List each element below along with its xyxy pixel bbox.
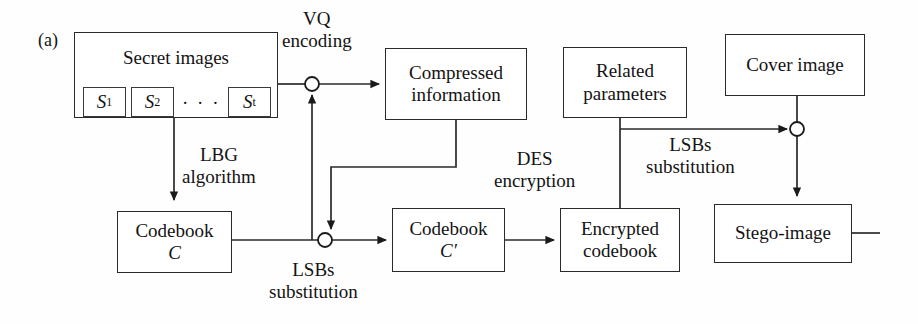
node-compressed-information[interactable]: Compressed information bbox=[385, 48, 527, 120]
node-encrypted-codebook-line2: codebook bbox=[581, 240, 659, 262]
node-stego-image[interactable]: Stego-image bbox=[714, 204, 852, 263]
edge-label-lsbs-substitution-left: LSBs substitution bbox=[269, 259, 358, 303]
secret-image-item-s2[interactable]: S2 bbox=[131, 87, 174, 117]
secret-image-item-s2-sub: 2 bbox=[154, 95, 160, 110]
secret-image-item-st-base: S bbox=[243, 91, 253, 113]
node-related-parameters-line2: parameters bbox=[583, 83, 666, 105]
node-encrypted-codebook[interactable]: Encrypted codebook bbox=[560, 208, 680, 272]
edge-label-vq-encoding-line1: VQ bbox=[282, 8, 352, 30]
edge-label-lsbs-substitution-left-line1: LSBs bbox=[269, 259, 358, 281]
secret-image-item-st-sub: t bbox=[253, 95, 256, 110]
lsb-right-junction-node bbox=[790, 122, 804, 136]
edge-label-lsbs-substitution-left-line2: substitution bbox=[269, 281, 358, 303]
node-codebook-c-line2: C bbox=[135, 242, 213, 264]
node-cover-image[interactable]: Cover image bbox=[725, 34, 865, 96]
edge-label-vq-encoding: VQ encoding bbox=[282, 8, 352, 52]
edge-label-lsbs-substitution-right-line1: LSBs bbox=[646, 134, 735, 156]
diagram-canvas: (a) Secret images S1 S2 · · · St Compres… bbox=[0, 0, 918, 324]
vq-junction-node bbox=[305, 77, 319, 91]
panel-label: (a) bbox=[38, 30, 58, 51]
edge-label-lbg-algorithm: LBG algorithm bbox=[182, 144, 256, 188]
edge-label-lbg-algorithm-line1: LBG bbox=[182, 144, 256, 166]
edge-label-lbg-algorithm-line2: algorithm bbox=[182, 166, 256, 188]
secret-image-item-s2-base: S bbox=[145, 91, 155, 113]
node-codebook-c[interactable]: Codebook C bbox=[117, 211, 232, 273]
secret-image-item-st[interactable]: St bbox=[228, 87, 271, 117]
node-codebook-c-prime-line1: Codebook bbox=[409, 218, 487, 240]
node-cover-image-label: Cover image bbox=[746, 54, 844, 76]
edge-label-vq-encoding-line2: encoding bbox=[282, 30, 352, 52]
edge-label-des-encryption-line1: DES bbox=[494, 148, 575, 170]
edge-label-des-encryption: DES encryption bbox=[494, 148, 575, 192]
node-encrypted-codebook-line1: Encrypted bbox=[581, 218, 659, 240]
secret-image-item-s1-base: S bbox=[97, 91, 107, 113]
node-codebook-c-prime[interactable]: Codebook C′ bbox=[392, 208, 505, 272]
node-compressed-information-line2: information bbox=[409, 84, 503, 106]
node-secret-images-label: Secret images bbox=[123, 47, 229, 69]
edge-label-lsbs-substitution-right-line2: substitution bbox=[646, 156, 735, 178]
lsb-left-junction-node bbox=[318, 233, 332, 247]
node-related-parameters[interactable]: Related parameters bbox=[563, 47, 687, 118]
secret-images-ellipsis: · · · bbox=[182, 92, 220, 114]
node-codebook-c-prime-line2: C′ bbox=[409, 240, 487, 262]
node-codebook-c-line1: Codebook bbox=[135, 220, 213, 242]
node-compressed-information-line1: Compressed bbox=[409, 62, 503, 84]
secret-image-item-s1-sub: 1 bbox=[106, 95, 112, 110]
edge-label-des-encryption-line2: encryption bbox=[494, 170, 575, 192]
node-related-parameters-line1: Related bbox=[583, 60, 666, 82]
secret-image-item-s1[interactable]: S1 bbox=[83, 87, 126, 117]
edge-label-lsbs-substitution-right: LSBs substitution bbox=[646, 134, 735, 178]
node-stego-image-label: Stego-image bbox=[735, 222, 831, 244]
